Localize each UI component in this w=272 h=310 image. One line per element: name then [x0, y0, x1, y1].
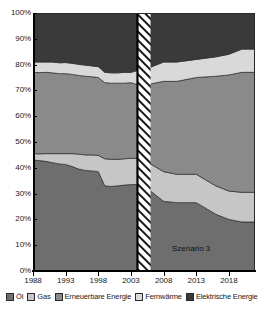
legend-label: Elektrische Energie — [196, 293, 258, 301]
legend-label: Gas — [37, 293, 50, 301]
y-tick-mark — [33, 90, 37, 91]
x-tick-mark — [131, 272, 132, 276]
y-tick-label: 100% — [1, 9, 31, 17]
x-tick-mark — [33, 272, 34, 276]
x-tick-mark — [229, 272, 230, 276]
y-tick-mark — [33, 219, 37, 220]
y-tick-label: 10% — [1, 241, 31, 249]
legend-swatch-icon — [55, 293, 63, 301]
legend-label: Fernwärme — [145, 293, 182, 301]
x-tick-mark — [98, 272, 99, 276]
x-tick-mark — [164, 272, 165, 276]
x-tick-mark — [66, 272, 67, 276]
legend-item[interactable]: Öl — [6, 293, 23, 301]
y-tick-mark — [33, 39, 37, 40]
y-tick-label: 80% — [1, 61, 31, 69]
y-tick-label: 60% — [1, 112, 31, 120]
y-tick-label: 40% — [1, 164, 31, 172]
y-tick-mark — [33, 142, 37, 143]
y-axis-labels: 0%10%20%30%40%50%60%70%80%90%100% — [0, 0, 31, 310]
legend-label: Öl — [16, 293, 23, 301]
stacked-area-chart — [33, 13, 255, 271]
x-tick-label: 1993 — [49, 276, 83, 285]
y-tick-mark — [33, 65, 37, 66]
chart-figure: 0%10%20%30%40%50%60%70%80%90%100% 198819… — [0, 0, 272, 310]
x-tick-mark — [196, 272, 197, 276]
chart-legend: ÖlGasErneuerbare EnergieFernwärmeElektri… — [6, 291, 268, 303]
x-tick-label: 2003 — [114, 276, 148, 285]
y-tick-label: 90% — [1, 35, 31, 43]
y-tick-label: 30% — [1, 190, 31, 198]
x-tick-label: 2018 — [212, 276, 246, 285]
legend-item[interactable]: Elektrische Energie — [186, 293, 258, 301]
legend-label: Erneuerbare Energie — [65, 293, 132, 301]
x-tick-label: 1988 — [16, 276, 50, 285]
y-tick-label: 0% — [1, 267, 31, 275]
hatch-rect — [137, 13, 150, 271]
y-tick-label: 20% — [1, 215, 31, 223]
legend-item[interactable]: Fernwärme — [135, 293, 182, 301]
x-tick-label: 1998 — [81, 276, 115, 285]
legend-swatch-icon — [27, 293, 35, 301]
legend-swatch-icon — [6, 293, 14, 301]
y-tick-mark — [33, 168, 37, 169]
x-tick-label: 2013 — [179, 276, 213, 285]
y-tick-label: 50% — [1, 138, 31, 146]
x-axis-labels: 1988199319982003200820132018 — [0, 276, 272, 290]
legend-swatch-icon — [135, 293, 143, 301]
legend-swatch-icon — [186, 293, 194, 301]
legend-item[interactable]: Erneuerbare Energie — [55, 293, 132, 301]
y-tick-mark — [33, 194, 37, 195]
scenario-annotation: Szenario 3 — [172, 244, 210, 253]
y-tick-mark — [33, 116, 37, 117]
y-tick-label: 70% — [1, 86, 31, 94]
forecast-hatch-band — [137, 13, 150, 271]
plot-area — [33, 13, 255, 271]
y-tick-mark — [33, 13, 37, 14]
y-tick-mark — [33, 245, 37, 246]
x-tick-label: 2008 — [147, 276, 181, 285]
legend-item[interactable]: Gas — [27, 293, 50, 301]
